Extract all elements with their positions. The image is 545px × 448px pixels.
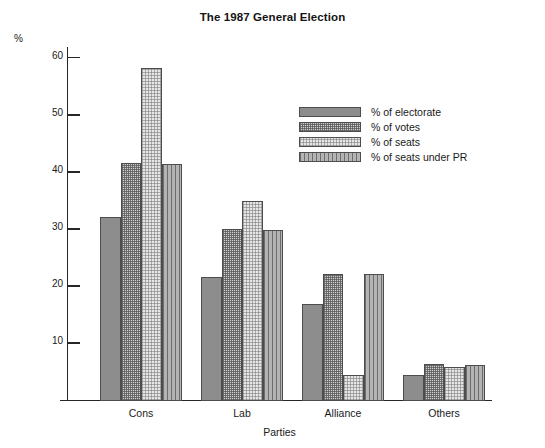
- plot-area: 102030405060 ConsLabAllianceOthers Parti…: [67, 47, 492, 401]
- legend-item-3[interactable]: % of seats: [299, 134, 489, 149]
- legend-swatch-icon: [299, 137, 361, 147]
- y-tick-40: 40: [68, 171, 80, 173]
- bar-lab-series-1: [201, 277, 222, 401]
- chart-legend: % of electorate% of votes% of seats% of …: [299, 104, 489, 164]
- bar-alliance-series-1: [302, 304, 323, 401]
- y-tick-20: 20: [68, 285, 80, 287]
- bar-others-series-3: [444, 367, 465, 401]
- bar-others-series-1: [403, 375, 424, 401]
- y-tick-10: 10: [68, 342, 80, 344]
- bar-cons-series-2: [121, 163, 142, 401]
- y-tick-60: 60: [68, 57, 80, 59]
- legend-item-1[interactable]: % of electorate: [299, 104, 489, 119]
- bar-alliance-series-4: [364, 274, 385, 401]
- legend-label: % of seats: [371, 136, 420, 148]
- legend-swatch-icon: [299, 122, 361, 132]
- legend-label: % of seats under PR: [371, 151, 467, 163]
- bar-cons-series-4: [162, 164, 183, 401]
- x-axis-title: Parties: [67, 426, 492, 438]
- legend-item-2[interactable]: % of votes: [299, 119, 489, 134]
- legend-label: % of votes: [371, 121, 420, 133]
- category-label-others: Others: [428, 407, 460, 419]
- category-label-cons: Cons: [129, 407, 154, 419]
- bar-lab-series-4: [263, 230, 284, 401]
- y-axis-unit-label: %: [14, 33, 23, 44]
- y-axis-line: [67, 47, 68, 401]
- legend-swatch-icon: [299, 152, 361, 162]
- bar-others-series-2: [424, 364, 445, 401]
- bar-lab-series-3: [242, 201, 263, 401]
- bar-others-series-4: [465, 365, 486, 401]
- bar-alliance-series-2: [323, 274, 344, 401]
- y-tick-label: 50: [52, 107, 63, 118]
- y-tick-label: 20: [52, 278, 63, 289]
- bar-lab-series-2: [222, 229, 243, 401]
- y-tick-30: 30: [68, 228, 80, 230]
- bar-cons-series-1: [100, 217, 121, 401]
- bar-cons-series-3: [141, 68, 162, 401]
- legend-label: % of electorate: [371, 106, 441, 118]
- y-tick-50: 50: [68, 114, 80, 116]
- bar-alliance-series-3: [343, 375, 364, 401]
- legend-swatch-icon: [299, 107, 361, 117]
- category-label-alliance: Alliance: [325, 407, 362, 419]
- y-tick-label: 40: [52, 164, 63, 175]
- category-label-lab: Lab: [233, 407, 251, 419]
- chart-figure: The 1987 General Election % 102030405060…: [0, 0, 545, 448]
- y-tick-label: 30: [52, 221, 63, 232]
- y-tick-label: 10: [52, 335, 63, 346]
- legend-item-4[interactable]: % of seats under PR: [299, 149, 489, 164]
- y-tick-label: 60: [52, 50, 63, 61]
- chart-title: The 1987 General Election: [0, 11, 545, 23]
